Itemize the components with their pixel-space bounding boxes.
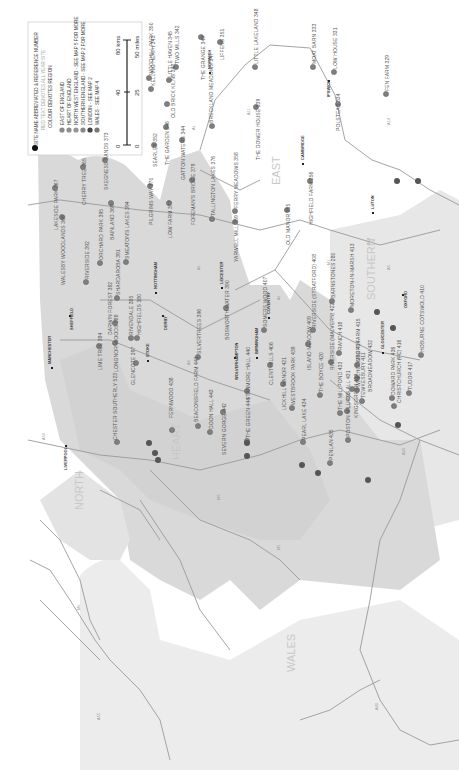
svg-text:BROADMEADOW 432: BROADMEADOW 432 (367, 340, 373, 392)
svg-text:TALLINGTON LAKES 376: TALLINGTON LAKES 376 (210, 156, 216, 216)
svg-text:YARWELL MILL 359: YARWELL MILL 359 (233, 215, 239, 262)
svg-text:CLENT HILLS 406: CLENT HILLS 406 (268, 342, 274, 385)
svg-text:SHARDAROBA 391: SHARDAROBA 391 (115, 249, 121, 295)
svg-text:A14: A14 (386, 117, 391, 125)
svg-text:LAKESIDE PARK 367: LAKESIDE PARK 367 (53, 179, 59, 230)
svg-text:MORETON-IN-MARSH 413: MORETON-IN-MARSH 413 (349, 243, 355, 307)
svg-text:THE DOWER HOUSE 339: THE DOWER HOUSE 339 (255, 99, 261, 160)
svg-text:RIVERSIDE 392: RIVERSIDE 392 (84, 241, 90, 279)
svg-text:HEART OF ENGLAND: HEART OF ENGLAND (67, 78, 72, 125)
svg-text:40: 40 (115, 89, 121, 96)
svg-text:LITTLE LAKELAND 348: LITTLE LAKELAND 348 (253, 8, 259, 64)
svg-text:WALESBY WOODLANDS 366: WALESBY WOODLANDS 366 (60, 215, 66, 285)
svg-text:PILGRIMS WAY 370: PILGRIMS WAY 370 (148, 178, 154, 225)
svg-text:THE GREEN 444: THE GREEN 444 (245, 398, 251, 438)
svg-text:KINGSGREEN 419: KINGSGREEN 419 (353, 373, 359, 418)
svg-text:CAMBRIDGE: CAMBRIDGE (300, 135, 305, 160)
svg-text:STOKE: STOKE (145, 343, 150, 357)
svg-text:THE MILLPOND 433: THE MILLPOND 433 (337, 362, 343, 410)
svg-text:RIVERSIDE (MALVERN) 422: RIVERSIDE (MALVERN) 422 (329, 302, 335, 370)
svg-text:OXFORD: OXFORD (403, 291, 408, 308)
svg-text:SILVERTREES 396: SILVERTREES 396 (196, 309, 202, 354)
svg-text:BEACONSFIELD FARM 441: BEACONSFIELD FARM 441 (193, 356, 199, 422)
svg-text:ORCHARD PARK 395: ORCHARD PARK 395 (98, 209, 104, 260)
svg-text:TWO MILLS 342: TWO MILLS 342 (174, 25, 180, 64)
svg-text:BIRMINGHAM: BIRMINGHAM (254, 327, 259, 354)
svg-text:LUTON: LUTON (370, 195, 375, 209)
svg-text:LOW HOUSE 331: LOW HOUSE 331 (332, 27, 338, 69)
svg-text:LIVERPOOL: LIVERPOOL (63, 446, 68, 470)
svg-text:SKEGNESS SANDS 373: SKEGNESS SANDS 373 (103, 132, 109, 190)
svg-text:A6: A6 (186, 359, 191, 365)
svg-text:WESTBROOK PARK 439: WESTBROOK PARK 439 (290, 346, 296, 405)
svg-text:DOON HALL 443: DOON HALL 443 (208, 389, 214, 429)
svg-text:A5: A5 (386, 264, 391, 270)
svg-text:TEWKESBURY 411: TEWKESBURY 411 (360, 352, 366, 398)
svg-text:A40: A40 (374, 702, 379, 710)
svg-text:FERRY MEADOWS 358: FERRY MEADOWS 358 (233, 152, 239, 208)
svg-text:HOBURNE COTSWOLD 410: HOBURNE COTSWOLD 410 (419, 285, 425, 352)
svg-text:80 kms: 80 kms (115, 36, 121, 55)
svg-text:MANCHESTER: MANCHESTER (47, 336, 52, 364)
svg-text:DERBY: DERBY (163, 316, 168, 330)
svg-text:SEARLES 352: SEARLES 352 (152, 133, 158, 167)
svg-text:PENLAN 435: PENLAN 435 (328, 429, 334, 460)
svg-text:STANMORE HALL 440: STANMORE HALL 440 (245, 347, 251, 400)
svg-text:GLENCOTE 397: GLENCOTE 397 (130, 346, 136, 385)
svg-text:NORTH WEST ENGLAND - SEE MAP 5: NORTH WEST ENGLAND - SEE MAP 5 FOR MORE (74, 17, 79, 125)
svg-text:RIVENDALE 385: RIVENDALE 385 (128, 296, 134, 335)
svg-text:SEVERN GORGE 442: SEVERN GORGE 442 (221, 403, 227, 455)
svg-text:50 miles: 50 miles (134, 36, 140, 58)
svg-text:THE BOYCE 420: THE BOYCE 420 (318, 352, 324, 392)
svg-text:KELLING HEATH 343: KELLING HEATH 343 (150, 35, 156, 86)
svg-text:HIGHFIELD FARM 356: HIGHFIELD FARM 356 (308, 171, 314, 225)
svg-text:EAST OF ENGLAND: EAST OF ENGLAND (60, 81, 65, 125)
svg-text:SOMERS WOOD 407: SOMERS WOOD 407 (262, 276, 268, 327)
svg-text:SMEATON'S LAKES 394: SMEATON'S LAKES 394 (124, 201, 130, 259)
legend-colour-note: COLOUR DENOTES REGION (48, 65, 53, 128)
svg-text:FERNWOOD 438: FERNWOOD 438 (168, 377, 174, 418)
svg-text:THE GARDEN 346: THE GARDEN 346 (164, 121, 170, 165)
svg-text:OLD MANOR 355: OLD MANOR 355 (285, 204, 291, 245)
legend-title: SITE NAME ABBREVIATED & REFERENCE NUMBER (34, 32, 39, 145)
svg-text:WOLVERHAMPTON: WOLVERHAMPTON (234, 342, 239, 380)
svg-text:A55: A55 (96, 712, 101, 720)
svg-text:A40: A40 (401, 447, 406, 455)
svg-text:LONGNOR WOODS 388: LONGNOR WOODS 388 (113, 314, 119, 372)
svg-text:LICKHILL MANOR 421: LICKHILL MANOR 421 (281, 357, 287, 410)
svg-text:NOTTINGHAM: NOTTINGHAM (153, 261, 158, 289)
svg-text:WALES - SEE MAP 4: WALES - SEE MAP 4 (95, 80, 100, 125)
svg-text:A11: A11 (246, 107, 251, 115)
svg-text:GATTON WATERS 344: GATTON WATERS 344 (180, 126, 186, 180)
svg-text:POLSTEAD 334: POLSTEAD 334 (335, 93, 341, 131)
region-label-north: NORTH (73, 471, 85, 510)
svg-text:LOW FARM 377: LOW FARM 377 (167, 200, 173, 238)
svg-text:BRECKLAND MEADOWS 347: BRECKLAND MEADOWS 347 (208, 53, 214, 123)
svg-text:RIVERSIDE (STRATFORD) 408: RIVERSIDE (STRATFORD) 408 (311, 254, 317, 328)
svg-text:FOREMAN'S BRIDGE 379: FOREMAN'S BRIDGE 379 (190, 163, 196, 225)
legend: SITE NAME ABBREVIATED & REFERENCE NUMBER… (28, 17, 142, 155)
svg-text:SHEFFIELD: SHEFFIELD (69, 308, 74, 330)
svg-text:CHERRY TREE 365: CHERRY TREE 365 (81, 158, 87, 205)
svg-text:M5: M5 (276, 544, 281, 550)
region-label-wales: WALES (285, 634, 297, 672)
svg-text:LONDON - SEE MAP 2: LONDON - SEE MAP 2 (88, 77, 93, 125)
svg-text:M6: M6 (76, 604, 81, 610)
region-label-southern: SOUTHERN (365, 238, 377, 300)
campsite-region-map: A1 A11 A14 A1 A14 M1 A5 A41 A40 A40 M5 A… (0, 0, 459, 770)
svg-text:IPSWICH: IPSWICH (326, 80, 331, 97)
svg-text:LIFFENS 351: LIFFENS 351 (219, 28, 225, 60)
svg-text:A1: A1 (191, 124, 196, 130)
svg-text:BAINLAND 369: BAINLAND 369 (109, 204, 115, 240)
legend-red-note: RED TEXT DENOTES ALL YEAR SITE (41, 50, 46, 130)
svg-text:POSTON MILL 430: POSTON MILL 430 (345, 392, 351, 437)
svg-text:LIME TREE 384: LIME TREE 384 (97, 333, 103, 370)
svg-text:MOAT BARN 333: MOAT BARN 333 (311, 24, 317, 64)
svg-text:THE GRANGE 349: THE GRANGE 349 (200, 36, 206, 80)
svg-text:SOUTHERN ENGLAND - SEE MAP 2 F: SOUTHERN ENGLAND - SEE MAP 2 FOR MORE (81, 21, 86, 125)
svg-text:PEARL LAKE 434: PEARL LAKE 434 (301, 398, 307, 440)
svg-text:A50: A50 (41, 432, 46, 440)
region-label-east: EAST (270, 156, 282, 185)
svg-text:HIGHFIELDS 380: HIGHFIELDS 380 (136, 294, 142, 335)
svg-text:GLOUCESTER: GLOUCESTER (380, 321, 385, 349)
